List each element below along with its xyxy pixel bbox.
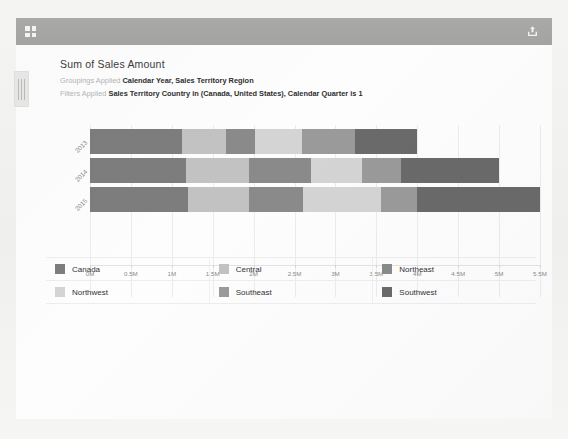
bar-segment[interactable] [188, 187, 249, 212]
groupings-value: Calendar Year, Sales Territory Region [122, 76, 253, 85]
y-axis-category-label: 2015 [65, 197, 88, 220]
share-glyph [526, 25, 539, 38]
bar-segment[interactable] [182, 129, 225, 154]
legend-item-northeast[interactable]: Northeast [372, 258, 536, 280]
chart-legend: CanadaCentralNortheastNorthwestSoutheast… [46, 257, 536, 304]
legend-swatch-icon [219, 264, 229, 274]
legend-label: Northeast [399, 265, 434, 274]
bar-segment[interactable] [401, 158, 499, 183]
expand-icon[interactable] [21, 22, 40, 41]
legend-swatch-icon [55, 287, 65, 297]
bar-segment[interactable] [303, 187, 382, 212]
visual-header: Sum of Sales Amount Groupings Applied Ca… [60, 58, 530, 101]
y-axis-category-label: 2014 [65, 168, 88, 191]
legend-item-canada[interactable]: Canada [46, 258, 209, 280]
legend-label: Canada [72, 265, 100, 274]
legend-row: NorthwestSoutheastSouthwest [46, 281, 536, 304]
bar-segment[interactable] [90, 187, 188, 212]
page-title: Sum of Sales Amount [60, 58, 530, 70]
visual-card: Sum of Sales Amount Groupings Applied Ca… [16, 45, 552, 419]
legend-swatch-icon [382, 287, 392, 297]
bar-segment[interactable] [226, 129, 255, 154]
legend-row: CanadaCentralNortheast [46, 258, 536, 281]
page-root: Sum of Sales Amount Groupings Applied Ca… [0, 0, 568, 439]
x-axis-tick [540, 265, 541, 268]
groupings-label: Groupings Applied [60, 76, 120, 85]
bar-segment[interactable] [311, 158, 362, 183]
expand-glyph [25, 26, 36, 37]
legend-item-northwest[interactable]: Northwest [46, 281, 209, 303]
bar-segment[interactable] [249, 187, 303, 212]
y-axis-category-label: 2013 [65, 139, 88, 162]
groupings-line: Groupings Applied Calendar Year, Sales T… [60, 75, 530, 86]
bar-segment[interactable] [381, 187, 417, 212]
bar-segment[interactable] [90, 158, 186, 183]
filters-line: Filters Applied Sales Territory Country … [60, 88, 530, 99]
visual-toolbar [16, 18, 552, 45]
bar-segment[interactable] [249, 158, 311, 183]
bar-row[interactable] [90, 158, 499, 183]
legend-label: Southeast [236, 288, 272, 297]
bar-segment[interactable] [355, 129, 417, 154]
bar-segment[interactable] [417, 187, 540, 212]
bar-row[interactable] [90, 129, 417, 154]
legend-label: Central [236, 265, 262, 274]
chart-bars [90, 129, 540, 217]
legend-swatch-icon [382, 264, 392, 274]
legend-item-central[interactable]: Central [209, 258, 373, 280]
bar-row[interactable] [90, 187, 540, 212]
filters-label: Filters Applied [60, 89, 106, 98]
legend-swatch-icon [219, 287, 229, 297]
share-icon[interactable] [523, 22, 542, 41]
bar-segment[interactable] [186, 158, 249, 183]
bar-segment[interactable] [90, 129, 182, 154]
filters-value: Sales Territory Country in (Canada, Unit… [108, 89, 362, 98]
legend-swatch-icon [55, 264, 65, 274]
bar-segment[interactable] [302, 129, 355, 154]
legend-item-southwest[interactable]: Southwest [372, 281, 536, 303]
legend-label: Southwest [399, 288, 436, 297]
legend-label: Northwest [72, 288, 108, 297]
legend-item-southeast[interactable]: Southeast [209, 281, 373, 303]
resize-grip[interactable] [14, 71, 29, 107]
bar-segment[interactable] [255, 129, 302, 154]
bar-segment[interactable] [362, 158, 401, 183]
